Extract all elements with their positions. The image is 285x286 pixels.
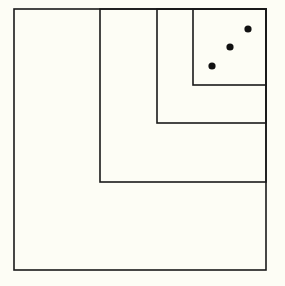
dot-2 bbox=[226, 43, 233, 50]
dots-group bbox=[208, 25, 251, 69]
dot-1 bbox=[208, 62, 215, 69]
square-level-2 bbox=[100, 9, 266, 182]
nested-squares-diagram bbox=[0, 0, 285, 286]
dot-3 bbox=[244, 25, 251, 32]
